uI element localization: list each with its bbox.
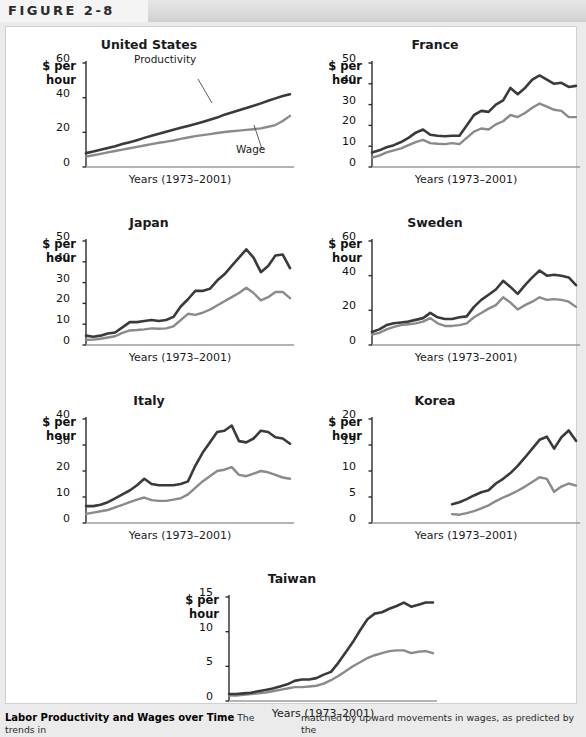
y-tick-label: 20	[46, 460, 70, 473]
chart-sweden: Sweden$ perhour0204060Years (1973–2001)	[292, 205, 578, 385]
chart-france: France$ perhour01020304050Years (1973–20…	[292, 27, 578, 207]
plot-area	[364, 415, 568, 519]
y-tick-label: 0	[189, 690, 213, 703]
y-tick-label: 10	[46, 486, 70, 499]
y-tick-label: 0	[46, 334, 70, 347]
plot-area	[221, 593, 425, 697]
chart-row-1: United States$ perhour0204060Years (1973…	[6, 27, 578, 207]
y-tick-label: 10	[332, 135, 356, 148]
y-tick-label: 30	[332, 94, 356, 107]
y-tick-label: 10	[46, 313, 70, 326]
y-tick-label: 15	[332, 434, 356, 447]
series-line-wage	[86, 467, 290, 514]
series-line-productivity	[372, 270, 576, 332]
y-tick-label: 10	[332, 460, 356, 473]
chart-korea: Korea$ perhour05101520Years (1973–2001)	[292, 383, 578, 563]
y-tick-label: 30	[46, 272, 70, 285]
y-axis-label-line2: hour	[332, 251, 362, 265]
x-axis-label: Years (1973–2001)	[78, 173, 282, 186]
chart-row-2: Japan$ perhour01020304050Years (1973–200…	[6, 205, 578, 385]
caption-column-2: matched by upward movements in wages, as…	[301, 712, 581, 736]
y-tick-label: 10	[189, 621, 213, 634]
chart-title: Taiwan	[149, 571, 435, 586]
y-tick-label: 50	[46, 230, 70, 243]
chart-taiwan: Taiwan$ perhour051015Years (1973–2001)	[149, 561, 435, 737]
y-tick-label: 0	[46, 512, 70, 525]
x-axis-label: Years (1973–2001)	[364, 529, 568, 542]
y-tick-label: 20	[46, 121, 70, 134]
chart-title: Japan	[6, 215, 292, 230]
caption-column-1: Labor Productivity and Wages over Time T…	[5, 712, 285, 736]
y-tick-label: 5	[332, 486, 356, 499]
y-tick-label: 60	[332, 230, 356, 243]
y-axis-label-line2: hour	[189, 607, 219, 621]
y-tick-label: 40	[46, 251, 70, 264]
caption-text-2: matched by upward movements in wages, as…	[301, 712, 574, 735]
y-tick-label: 0	[332, 156, 356, 169]
y-tick-label: 40	[46, 408, 70, 421]
annotation-productivity: Productivity	[134, 53, 196, 65]
chart-title: France	[292, 37, 578, 52]
y-tick-label: 15	[189, 586, 213, 599]
series-line-wage	[372, 104, 576, 158]
x-axis-label: Years (1973–2001)	[78, 351, 282, 364]
chart-japan: Japan$ perhour01020304050Years (1973–200…	[6, 205, 292, 385]
y-tick-label: 20	[46, 292, 70, 305]
y-tick-label: 60	[46, 52, 70, 65]
y-tick-label: 0	[46, 156, 70, 169]
chart-united-states: United States$ perhour0204060Years (1973…	[6, 27, 292, 207]
chart-title: Sweden	[292, 215, 578, 230]
y-tick-label: 20	[332, 408, 356, 421]
figure-panel: United States$ perhour0204060Years (1973…	[5, 26, 577, 704]
series-line-wage	[372, 297, 576, 334]
chart-title: Korea	[292, 393, 578, 408]
y-tick-label: 40	[46, 87, 70, 100]
caption-title: Labor Productivity and Wages over Time	[5, 712, 234, 723]
plot-area	[78, 237, 282, 341]
figure-number-label: FIGURE 2-8	[8, 3, 115, 18]
y-tick-label: 0	[332, 334, 356, 347]
y-tick-label: 5	[189, 655, 213, 668]
y-tick-label: 30	[46, 434, 70, 447]
y-tick-label: 40	[332, 265, 356, 278]
y-tick-label: 40	[332, 73, 356, 86]
plot-area	[364, 59, 568, 163]
y-axis-label-line2: hour	[46, 73, 76, 87]
annotation-wage: Wage	[236, 143, 265, 155]
y-tick-label: 20	[332, 299, 356, 312]
x-axis-label: Years (1973–2001)	[364, 351, 568, 364]
x-axis-label: Years (1973–2001)	[78, 529, 282, 542]
chart-row-3: Italy$ perhour010203040Years (1973–2001)…	[6, 383, 578, 563]
y-tick-label: 50	[332, 52, 356, 65]
y-tick-label: 20	[332, 114, 356, 127]
x-axis-label: Years (1973–2001)	[364, 173, 568, 186]
y-tick-label: 0	[332, 512, 356, 525]
plot-area	[78, 415, 282, 519]
series-line-productivity	[86, 249, 290, 336]
chart-italy: Italy$ perhour010203040Years (1973–2001)	[6, 383, 292, 563]
plot-area	[364, 237, 568, 341]
series-line-productivity	[372, 75, 576, 152]
chart-title: United States	[6, 37, 292, 52]
chart-row-4: Taiwan$ perhour051015Years (1973–2001)	[6, 561, 578, 737]
chart-title: Italy	[6, 393, 292, 408]
figure-header-band: FIGURE 2-8	[0, 0, 586, 22]
